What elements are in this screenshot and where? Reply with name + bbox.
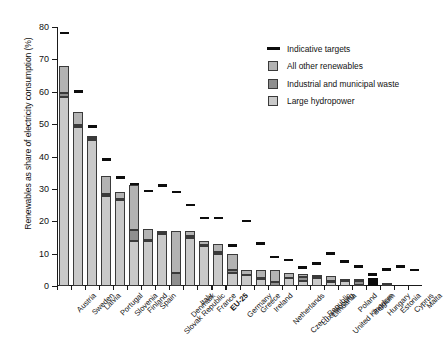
bar-column[interactable] [157, 27, 167, 286]
bar-segment-hydro [227, 273, 237, 286]
y-tick-label: 30 [39, 184, 49, 194]
bar-segment-other [227, 254, 237, 271]
bar-segment-waste [129, 230, 139, 240]
target-marker [74, 90, 83, 93]
bar-column[interactable] [199, 27, 209, 286]
bar-segment-other [284, 273, 294, 278]
bar-segment-waste [270, 282, 280, 286]
bar-column[interactable] [129, 27, 139, 286]
x-tick [183, 286, 184, 290]
bar-segment-waste [73, 125, 83, 127]
x-tick [254, 286, 255, 290]
bar-column[interactable] [256, 27, 266, 286]
bar-segment-waste [59, 93, 69, 97]
bar-segment-hydro [326, 282, 336, 286]
bar-segment-other [185, 231, 195, 236]
bar-column[interactable] [115, 27, 125, 286]
bar-column[interactable] [171, 27, 181, 286]
bar-segment-other [87, 136, 97, 138]
legend-item: All other renewables [266, 58, 399, 76]
legend-label: All other renewables [287, 61, 363, 71]
legend-box-swatch [268, 61, 278, 71]
bar-column[interactable] [227, 27, 237, 286]
x-tick [366, 286, 367, 290]
bar-column[interactable] [185, 27, 195, 286]
x-tick [310, 286, 311, 290]
legend-item: Large hydropower [266, 93, 399, 111]
bar-column[interactable] [59, 27, 69, 286]
bar-segment-hydro [115, 200, 125, 286]
bar-segment-waste [298, 277, 308, 282]
bar-segment-other [101, 176, 111, 194]
x-tick [85, 286, 86, 290]
x-tick [338, 286, 339, 290]
x-tick [197, 286, 198, 290]
bar-column[interactable] [101, 27, 111, 286]
target-marker [354, 265, 363, 268]
target-marker [60, 32, 69, 35]
bar-segment-other [171, 231, 181, 273]
target-marker [228, 244, 237, 247]
bar-segment-hydro [256, 279, 266, 286]
bar-column[interactable] [213, 27, 223, 286]
x-tick [240, 286, 241, 290]
y-tick-label: 0 [44, 281, 49, 291]
target-marker [326, 252, 335, 255]
bar-column[interactable] [410, 27, 420, 286]
bar-segment-waste [185, 236, 195, 238]
y-tick-label: 10 [39, 249, 49, 259]
x-tick [394, 286, 395, 290]
legend-key-targets [266, 43, 280, 54]
y-tick [52, 27, 57, 28]
legend-box-swatch [268, 96, 278, 106]
y-tick [52, 92, 57, 93]
target-marker [396, 265, 405, 268]
y-axis-title: Renewables as share of electricity consu… [23, 14, 34, 254]
target-marker [102, 158, 111, 161]
target-marker [88, 125, 97, 128]
target-marker [116, 176, 125, 179]
y-tick-label: 40 [39, 152, 49, 162]
bar-segment-hydro [312, 278, 322, 286]
bar-segment-other [199, 241, 209, 245]
bar-segment-other [59, 66, 69, 93]
bar-segment-hydro [340, 281, 350, 286]
bar-segment-hydro [199, 246, 209, 286]
bar-segment-other [298, 274, 308, 277]
bar-segment-hydro [185, 238, 195, 286]
y-tick [52, 189, 57, 190]
legend-label: Large hydropower [287, 96, 355, 106]
target-marker [256, 242, 265, 245]
bar-segment-waste [227, 270, 237, 273]
bar-segment-waste [354, 281, 364, 284]
x-tick [225, 286, 226, 290]
y-tick [52, 59, 57, 60]
y-tick [52, 157, 57, 158]
y-tick-label: 80 [39, 22, 49, 32]
x-tick [296, 286, 297, 290]
bar-segment-other [270, 270, 280, 282]
y-tick-label: 20 [39, 216, 49, 226]
y-tick-label: 70 [39, 54, 49, 64]
bar-segment-hydro [129, 241, 139, 286]
bar-column[interactable] [73, 27, 83, 286]
x-tick [282, 286, 283, 290]
legend-line-swatch [267, 47, 280, 50]
bar-column[interactable] [87, 27, 97, 286]
bar-segment-hydro [298, 281, 308, 286]
bar-column[interactable] [241, 27, 251, 286]
target-marker [410, 269, 419, 272]
y-tick-label: 50 [39, 119, 49, 129]
x-tick [99, 286, 100, 290]
x-tick [380, 286, 381, 290]
legend-label: Industrial and municipal waste [287, 79, 399, 89]
bar-segment-other [213, 244, 223, 252]
target-marker [340, 260, 349, 263]
legend-item: Industrial and municipal waste [266, 75, 399, 93]
target-marker [158, 184, 167, 187]
bar-column[interactable] [143, 27, 153, 286]
x-tick [408, 286, 409, 290]
bar-segment-other [241, 270, 251, 275]
legend-box-swatch [268, 79, 278, 89]
